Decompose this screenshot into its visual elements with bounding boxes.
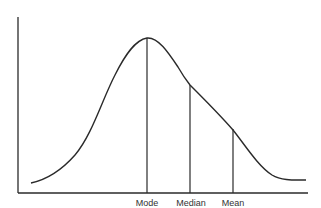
mode-label: Mode	[136, 198, 159, 208]
distribution-curve	[31, 38, 306, 183]
skew-distribution-diagram: Mode Median Mean	[0, 0, 321, 208]
mean-label: Mean	[222, 198, 245, 208]
median-label: Median	[176, 198, 206, 208]
